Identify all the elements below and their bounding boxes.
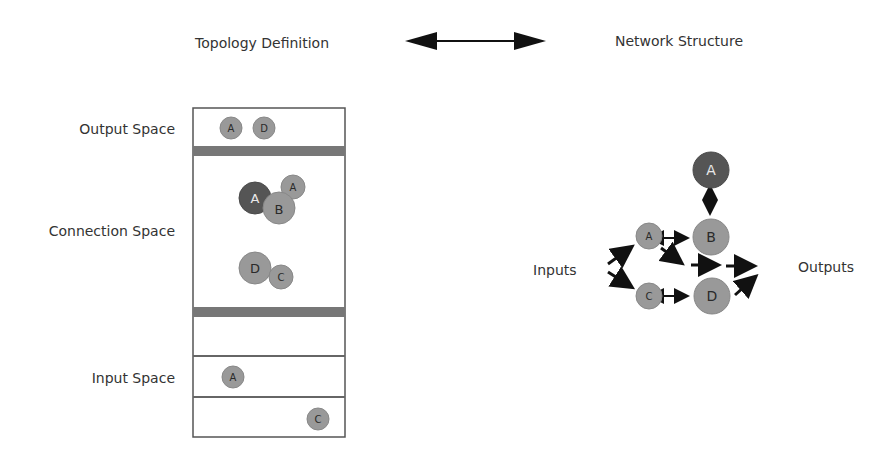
network-node-b: B [693, 219, 729, 255]
input-divider [193, 307, 345, 317]
input-node-c: C [307, 408, 329, 430]
svg-text:A: A [706, 162, 716, 178]
topology-diagram: Topology Definition Network Structure Ou… [0, 0, 892, 461]
connection-node-c: C [269, 265, 293, 289]
inputs-label: Inputs [533, 262, 577, 278]
svg-text:D: D [250, 261, 260, 276]
svg-text:C: C [646, 291, 653, 302]
topology-definition-title: Topology Definition [194, 35, 329, 51]
output-node-d: D [253, 117, 275, 139]
network-node-a: A [636, 223, 662, 249]
double-arrow-icon [405, 32, 546, 50]
output-divider [193, 146, 345, 156]
svg-text:D: D [260, 123, 268, 134]
network-structure-title: Network Structure [615, 33, 743, 49]
svg-text:B: B [275, 202, 284, 217]
svg-text:A: A [230, 372, 237, 383]
network-node-d: D [694, 278, 730, 314]
svg-text:C: C [278, 272, 285, 283]
outputs-label: Outputs [798, 259, 854, 275]
svg-text:A: A [251, 191, 260, 206]
network-arrows [608, 196, 754, 296]
connection-node-b: B [263, 192, 295, 224]
output-node-a: A [220, 117, 242, 139]
svg-text:D: D [707, 288, 718, 304]
svg-text:A: A [290, 182, 297, 193]
svg-text:B: B [706, 229, 716, 245]
output-space-label: Output Space [79, 121, 175, 137]
network-node-c: C [636, 283, 662, 309]
svg-text:A: A [646, 231, 653, 242]
svg-text:A: A [228, 123, 235, 134]
input-node-a: A [222, 366, 244, 388]
network-node-a-top: A [693, 152, 729, 188]
connection-node-d: D [239, 252, 271, 284]
svg-text:C: C [315, 414, 322, 425]
connection-space-label: Connection Space [49, 223, 175, 239]
input-space-label: Input Space [92, 370, 175, 386]
